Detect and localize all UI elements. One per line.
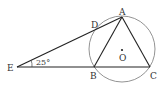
label-b: B: [90, 71, 97, 81]
angle-label: 25°: [36, 58, 50, 67]
line-ea: [17, 17, 122, 67]
center-dot: [121, 49, 123, 51]
angle-arc: [31, 60, 32, 67]
label-o: O: [119, 53, 126, 63]
label-d: D: [91, 20, 98, 30]
label-e: E: [7, 63, 14, 73]
label-a: A: [118, 7, 126, 17]
geometry-diagram: A B C D E O 25°: [0, 0, 161, 86]
label-c: C: [150, 71, 157, 81]
